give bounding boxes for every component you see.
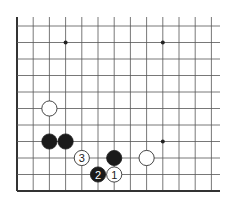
star-point — [161, 41, 165, 45]
star-point — [64, 41, 68, 45]
black-stone — [107, 150, 122, 165]
move-number: 3 — [79, 152, 85, 164]
white-stone: 3 — [74, 150, 89, 165]
move-number: 1 — [111, 169, 117, 181]
star-point — [161, 140, 165, 144]
black-stone: 2 — [90, 167, 105, 182]
go-board: 321 — [0, 0, 234, 203]
black-stone — [42, 134, 57, 149]
white-stone — [139, 150, 154, 165]
white-stone — [42, 101, 57, 116]
black-stone — [58, 134, 73, 149]
move-number: 2 — [95, 169, 101, 181]
white-stone: 1 — [107, 167, 122, 182]
